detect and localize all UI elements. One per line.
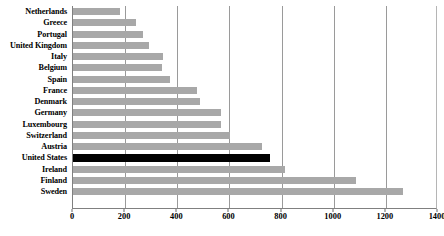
bar [73,177,356,184]
x-axis-tick-labels: 0200400600800100012001400 [72,209,437,229]
y-axis-category-labels: NetherlandsGreecePortugalUnited KingdomI… [0,6,70,209]
x-tick-label: 1000 [324,212,341,221]
x-tick-label: 1400 [429,212,444,221]
x-tick-label: 600 [222,212,235,221]
x-tick-label: 0 [70,212,74,221]
bar [73,121,221,128]
bar-chart: NetherlandsGreecePortugalUnited KingdomI… [0,0,444,236]
bar [73,143,262,150]
bar [73,76,170,83]
bar-row [73,186,436,197]
y-axis-label: United States [0,152,70,163]
bar [73,109,221,116]
y-axis-label: United Kingdom [0,40,70,51]
bar-row [73,96,436,107]
bar-row [73,40,436,51]
bar-row [73,17,436,28]
y-axis-label: Luxembourg [0,119,70,130]
bar-rows [73,6,436,208]
y-axis-label: Belgium [0,62,70,73]
bar [73,166,285,173]
bar [73,53,163,60]
y-axis-label: Ireland [0,164,70,175]
y-axis-label: Sweden [0,186,70,197]
bar-row [73,130,436,141]
y-axis-label: Switzerland [0,130,70,141]
y-axis-label: Netherlands [0,6,70,17]
bar-highlighted [73,154,270,162]
x-tick-label: 1200 [376,212,393,221]
plot-area [72,6,437,209]
bar-row [73,74,436,85]
bar-row [73,62,436,73]
y-axis-label: Greece [0,17,70,28]
bar-row [73,175,436,186]
bar-row [73,119,436,130]
bar-row [73,29,436,40]
bar-row [73,107,436,118]
bar-row [73,85,436,96]
y-axis-label: Italy [0,51,70,62]
bar [73,42,149,49]
bar-row [73,141,436,152]
bar [73,31,143,38]
bar-row [73,6,436,17]
bar [73,19,136,26]
bar [73,188,403,195]
y-axis-label: Denmark [0,96,70,107]
x-tick-label: 400 [170,212,183,221]
bar-row [73,164,436,175]
bar [73,87,197,94]
bar [73,64,162,71]
x-tick-label: 800 [274,212,287,221]
y-axis-label: Spain [0,74,70,85]
bar [73,132,230,139]
y-axis-label: Portugal [0,29,70,40]
bar-row [73,152,436,163]
y-axis-label: Austria [0,141,70,152]
y-axis-label: Finland [0,175,70,186]
x-tick-label: 200 [118,212,131,221]
bar-row [73,51,436,62]
bar [73,8,120,15]
y-axis-label: Germany [0,107,70,118]
y-axis-label: France [0,85,70,96]
bar [73,98,200,105]
